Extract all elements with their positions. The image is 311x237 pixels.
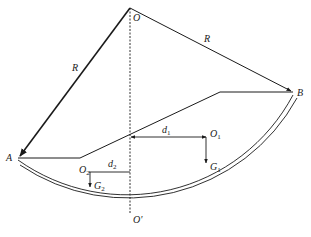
outer-arc-inner <box>18 95 293 195</box>
point-b-label: B <box>297 87 303 98</box>
g1-label: G1 <box>210 161 221 174</box>
g2-label: G2 <box>94 180 105 193</box>
sector-diagram: O O' A B R R d1 O1 G1 d2 O2 G2 <box>0 0 311 237</box>
radius-right-label: R <box>203 33 210 44</box>
point-a-label: A <box>5 152 13 163</box>
radius-left-label: R <box>71 62 78 73</box>
radius-line-ob <box>130 8 291 91</box>
point-o-label: O <box>133 12 140 23</box>
d1-label: d1 <box>162 124 171 137</box>
point-o1-label: O1 <box>210 128 221 141</box>
radius-line-oa <box>20 8 130 156</box>
point-o2-label: O2 <box>79 164 90 177</box>
point-o-prime-label: O' <box>133 214 143 225</box>
d2-label: d2 <box>108 158 117 171</box>
